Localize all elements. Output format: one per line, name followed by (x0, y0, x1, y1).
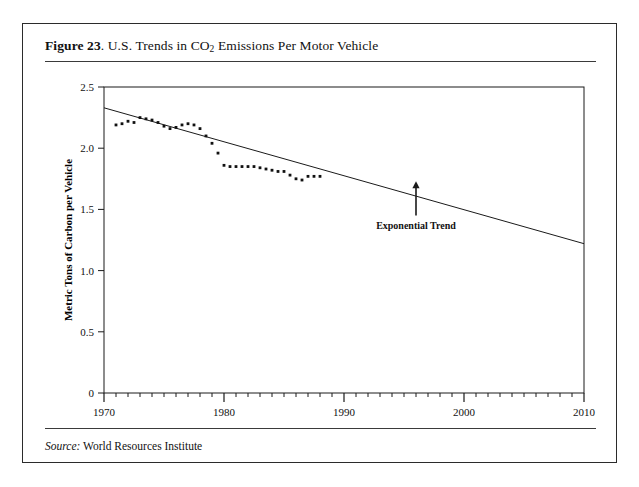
data-point (157, 121, 160, 124)
y-axis-tick-label: 0.5 (80, 326, 94, 338)
data-point (241, 165, 244, 168)
x-axis-tick-label: 1980 (213, 406, 236, 418)
source-label: Source: (45, 440, 80, 452)
y-axis-tick-label: 1.5 (80, 203, 94, 215)
data-point (151, 119, 154, 122)
data-point (313, 175, 316, 178)
x-axis-tick-label: 1970 (93, 406, 116, 418)
data-point (301, 179, 304, 182)
figure-card: Figure 23. U.S. Trends in CO2 Emissions … (22, 23, 617, 463)
source-note: Source: World Resources Institute (45, 440, 202, 452)
x-axis-tick-label: 2000 (453, 406, 476, 418)
data-point (253, 165, 256, 168)
data-point (181, 124, 184, 127)
data-point (199, 127, 202, 130)
data-point (271, 169, 274, 172)
data-point (247, 165, 250, 168)
data-point (259, 166, 262, 169)
x-axis-tick-label: 2010 (573, 406, 596, 418)
trend-annotation-label: Exponential Trend (376, 220, 456, 231)
chart-plot-area: 00.51.01.52.02.5Metric Tons of Carbon pe… (23, 24, 618, 464)
y-axis-tick-label: 2.0 (80, 142, 94, 154)
data-point (295, 177, 298, 180)
data-point (175, 126, 178, 129)
data-point (187, 122, 190, 125)
data-point (145, 117, 148, 120)
data-point (283, 170, 286, 173)
data-point (133, 121, 136, 124)
source-value: World Resources Institute (83, 440, 202, 452)
plot-frame (104, 87, 584, 393)
y-axis-title: Metric Tons of Carbon per Vehicle (62, 159, 74, 321)
co2-emissions-scatter-chart: 00.51.01.52.02.5Metric Tons of Carbon pe… (23, 24, 618, 464)
y-axis-tick-label: 0 (89, 387, 95, 399)
trend-annotation-arrow-head (412, 181, 419, 188)
source-divider (45, 428, 596, 429)
data-point (211, 142, 214, 145)
data-point (193, 124, 196, 127)
data-point (319, 175, 322, 178)
data-point (139, 116, 142, 119)
data-point (205, 135, 208, 138)
data-point (223, 164, 226, 167)
data-point (289, 174, 292, 177)
data-point (169, 127, 172, 130)
data-point (127, 120, 130, 123)
y-axis-tick-label: 1.0 (80, 265, 94, 277)
x-axis-tick-label: 1990 (333, 406, 356, 418)
data-point (235, 165, 238, 168)
data-point (115, 124, 118, 127)
data-point (307, 175, 310, 178)
y-axis-tick-label: 2.5 (80, 81, 94, 93)
data-point (265, 168, 268, 171)
data-point (163, 125, 166, 128)
data-point (277, 170, 280, 173)
data-point (217, 152, 220, 155)
data-series-co2-emissions-per-motor-vehicle (115, 116, 322, 181)
data-point (229, 165, 232, 168)
data-point (121, 122, 124, 125)
